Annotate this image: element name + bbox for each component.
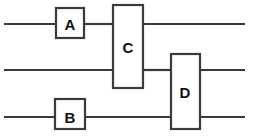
gate-c-label: C xyxy=(123,39,134,56)
gate-d[interactable]: D xyxy=(171,54,200,129)
gate-b[interactable]: B xyxy=(55,99,85,129)
gate-c[interactable]: C xyxy=(113,5,143,88)
gate-a-label: A xyxy=(65,16,76,33)
quantum-circuit-diagram: A C D B xyxy=(0,0,254,139)
gate-b-label: B xyxy=(65,109,76,126)
gate-d-label: D xyxy=(180,84,191,101)
gate-a[interactable]: A xyxy=(56,8,84,38)
circuit-canvas: A C D B xyxy=(0,0,254,139)
